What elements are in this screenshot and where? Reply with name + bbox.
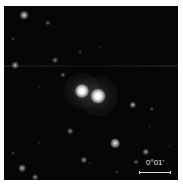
galaxy-nucleus [75, 84, 89, 98]
star [115, 170, 119, 174]
star [32, 174, 38, 180]
star [111, 139, 120, 148]
scale-bar-label: 0°01' [146, 159, 164, 167]
star [11, 151, 15, 155]
galaxy-nucleus [91, 89, 106, 104]
star [38, 86, 41, 89]
star [143, 149, 149, 155]
star [168, 144, 171, 147]
astronomical-image: 0°01' [4, 6, 178, 180]
star [19, 165, 26, 172]
star [11, 37, 15, 41]
star [99, 46, 102, 49]
star [81, 157, 87, 163]
star [52, 57, 58, 63]
star [20, 11, 28, 19]
star [12, 62, 19, 69]
star [78, 50, 82, 54]
star [67, 128, 73, 134]
star [88, 161, 91, 164]
horizontal-streak-artifact [4, 65, 178, 67]
star [130, 102, 136, 108]
scale-bar [139, 172, 171, 173]
star [148, 125, 151, 128]
star [45, 20, 50, 25]
star [60, 72, 65, 77]
star [37, 141, 40, 144]
star [134, 160, 139, 165]
star [150, 107, 154, 111]
